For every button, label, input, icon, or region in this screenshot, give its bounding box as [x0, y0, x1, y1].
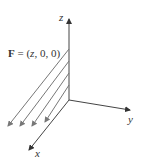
equation-prefix: = ( [15, 47, 30, 59]
y-axis-label: y [128, 114, 133, 125]
field-symbol: F [8, 47, 15, 59]
field-arrows [8, 49, 69, 126]
equation-suffix: , 0, 0) [34, 47, 60, 59]
field-equation-label: F = (z, 0, 0) [8, 48, 60, 59]
y-axis [69, 100, 130, 110]
vector-field-diagram [0, 0, 143, 166]
z-axis-label: z [59, 12, 63, 23]
x-axis-label: x [35, 148, 40, 159]
x-axis [29, 100, 69, 150]
